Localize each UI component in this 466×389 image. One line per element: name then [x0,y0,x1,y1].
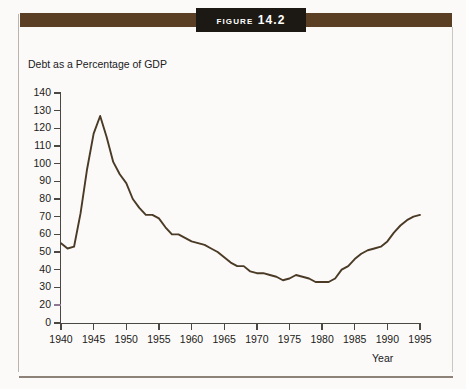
y-tick-110 [54,145,61,146]
x-tick-label-1980: 1980 [305,333,339,345]
x-tick-1980 [321,323,322,330]
x-tick-1985 [354,323,355,330]
figure-title-plaque: Figure 14.2 [196,8,306,32]
y-tick-140 [54,92,61,93]
x-tick-label-1970: 1970 [240,333,274,345]
x-tick-1945 [93,323,94,330]
y-tick-70 [54,216,61,217]
x-tick-1940 [60,323,61,330]
y-tick-label-40: 40 [25,263,51,275]
y-tick-20 [54,304,61,305]
y-tick-30 [54,287,61,288]
y-tick-label-120: 120 [25,121,51,133]
x-axis-caption: Year [372,352,393,364]
figure-page: Figure 14.2 Debt as a Percentage of GDP … [0,0,466,389]
x-tick-1955 [158,323,159,330]
x-tick-1960 [191,323,192,330]
x-tick-1990 [387,323,388,330]
x-tick-label-1975: 1975 [272,333,306,345]
x-tick-label-1995: 1995 [403,333,437,345]
right-frame-rule [452,27,453,372]
x-tick-label-1960: 1960 [175,333,209,345]
y-tick-130 [54,110,61,111]
left-frame-rule [18,14,19,372]
y-tick-120 [54,128,61,129]
x-tick-label-1965: 1965 [207,333,241,345]
x-tick-label-1950: 1950 [109,333,143,345]
x-tick-label-1945: 1945 [77,333,111,345]
y-tick-90 [54,181,61,182]
y-tick-label-50: 50 [25,245,51,257]
x-tick-1965 [224,323,225,330]
y-tick-label-80: 80 [25,192,51,204]
x-tick-label-1985: 1985 [338,333,372,345]
y-tick-label-0: 0 [25,316,51,328]
x-tick-label-1940: 1940 [44,333,78,345]
x-tick-1975 [289,323,290,330]
y-tick-label-130: 130 [25,104,51,116]
y-tick-label-140: 140 [25,86,51,98]
x-tick-label-1990: 1990 [370,333,404,345]
y-tick-label-90: 90 [25,174,51,186]
y-tick-40 [54,269,61,270]
y-tick-50 [54,251,61,252]
y-tick-label-110: 110 [25,139,51,151]
bottom-frame-rule [19,376,453,378]
x-tick-1950 [126,323,127,330]
debt-gdp-line [61,116,420,282]
y-tick-label-100: 100 [25,157,51,169]
y-tick-100 [54,163,61,164]
y-tick-label-70: 70 [25,210,51,222]
y-tick-label-20: 20 [25,298,51,310]
x-tick-label-1955: 1955 [142,333,176,345]
y-tick-60 [54,234,61,235]
figure-title: Figure 14.2 [216,13,285,27]
x-tick-1995 [419,323,420,330]
y-tick-label-30: 30 [25,280,51,292]
x-axis-line [60,323,420,324]
y-axis-caption: Debt as a Percentage of GDP [28,58,167,70]
y-tick-label-60: 60 [25,227,51,239]
x-tick-1970 [256,323,257,330]
y-tick-80 [54,198,61,199]
